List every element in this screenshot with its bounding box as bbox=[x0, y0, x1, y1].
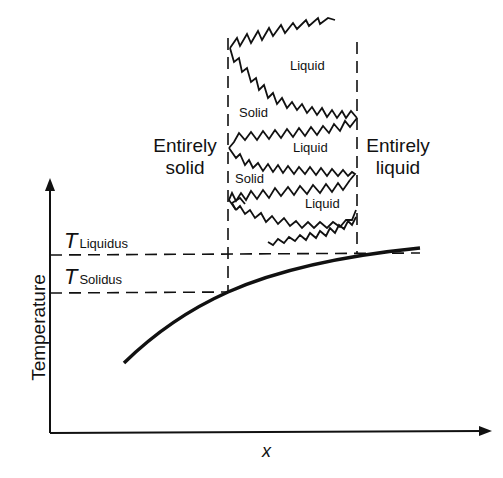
liquidus-symbol: T bbox=[64, 228, 77, 253]
y-axis-arrow-icon bbox=[45, 178, 55, 191]
x-axis bbox=[50, 431, 482, 433]
solidus-label: TSolidus bbox=[64, 266, 122, 288]
axes bbox=[50, 188, 482, 433]
solidus-subscript: Solidus bbox=[79, 272, 122, 287]
entirely-liquid-line2: liquid bbox=[363, 157, 433, 179]
entirely-liquid-label: Entirely liquid bbox=[363, 135, 433, 179]
liquidus-subscript: Liquidus bbox=[79, 236, 127, 251]
solidus-symbol: T bbox=[64, 264, 77, 289]
entirely-solid-line2: solid bbox=[150, 157, 220, 179]
x-axis-label: x bbox=[262, 442, 271, 460]
y-axis-label: Temperature bbox=[29, 268, 48, 388]
solidus-line bbox=[50, 292, 228, 293]
x-axis-arrow-icon bbox=[479, 426, 492, 436]
liquidus-label: TLiquidus bbox=[64, 230, 128, 252]
temperature-profile-curve bbox=[124, 248, 420, 363]
phase-label-liquid-1: Liquid bbox=[290, 59, 325, 72]
entirely-liquid-line1: Entirely bbox=[363, 135, 433, 157]
interface-1 bbox=[230, 18, 335, 48]
phase-label-solid-1: Solid bbox=[239, 106, 268, 119]
entirely-solid-label: Entirely solid bbox=[150, 135, 220, 179]
phase-label-solid-2: Solid bbox=[235, 172, 264, 185]
phase-label-liquid-2: Liquid bbox=[293, 141, 328, 154]
phase-label-liquid-3: Liquid bbox=[305, 197, 340, 210]
entirely-solid-line1: Entirely bbox=[150, 135, 220, 157]
